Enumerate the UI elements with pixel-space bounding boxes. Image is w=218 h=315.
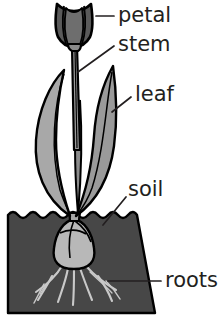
flower-base — [68, 44, 81, 51]
root-center — [73, 269, 74, 305]
label-soil: soil — [128, 177, 163, 201]
label-leaf: leaf — [135, 82, 175, 106]
leaf-left — [36, 70, 70, 216]
label-roots: roots — [165, 268, 218, 292]
plant-diagram: petal stem leaf soil roots — [0, 0, 218, 315]
leader-stem — [78, 46, 114, 72]
flower-group — [56, 4, 93, 51]
label-petal: petal — [118, 3, 171, 27]
label-stem: stem — [118, 32, 171, 56]
petal-center-front — [65, 8, 84, 45]
diagram-canvas: petal stem leaf soil roots — [0, 0, 218, 315]
stem-group — [72, 46, 80, 150]
